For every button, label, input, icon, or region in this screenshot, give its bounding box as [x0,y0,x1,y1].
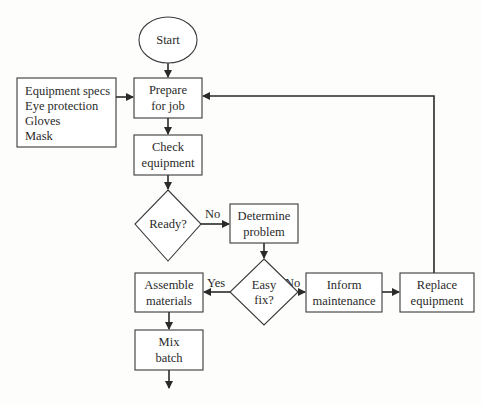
node-determine: Determine problem [230,204,298,243]
node-start: Start [139,17,197,63]
node-assemble-line2: materials [146,294,192,308]
edge-label-ready-no: No [205,207,220,221]
node-easyfix-line2: fix? [254,293,274,307]
node-check-line1: Check [152,140,185,154]
node-prepare: Prepare for job [134,78,202,118]
input-gloves: Gloves [25,114,61,128]
edge-replace-prepare [203,96,434,273]
node-assemble: Assemble materials [135,273,203,312]
node-inputs: Equipment specs Eye protection Gloves Ma… [17,78,116,147]
node-assemble-line1: Assemble [144,278,194,292]
input-equipment-specs: Equipment specs [25,84,110,98]
node-check-line2: equipment [142,156,195,170]
input-eye-protection: Eye protection [25,99,99,113]
node-replace: Replace equipment [400,273,474,312]
node-ready: Ready? [135,190,201,261]
node-replace-line1: Replace [417,278,458,292]
input-mask: Mask [25,129,54,143]
node-inform-line1: Inform [327,278,362,292]
flowchart: No Yes No Start Equipment specs Eye prot… [0,0,482,405]
node-determine-line2: problem [243,225,285,239]
node-mix-line2: batch [155,351,183,365]
node-mix: Mix batch [135,330,203,370]
node-check: Check equipment [134,135,202,175]
node-prepare-line2: for job [151,99,185,113]
edge-label-easyfix-yes: Yes [207,276,225,290]
node-start-label: Start [156,33,180,47]
node-easyfix-line1: Easy [252,278,277,292]
node-inform-line2: maintenance [312,294,376,308]
node-easyfix: Easy fix? [230,259,298,325]
node-prepare-line1: Prepare [149,83,188,97]
node-replace-line2: equipment [411,294,464,308]
node-determine-line1: Determine [238,209,291,223]
node-inform: Inform maintenance [306,273,382,312]
node-ready-label: Ready? [149,217,187,231]
node-mix-line1: Mix [159,335,181,349]
